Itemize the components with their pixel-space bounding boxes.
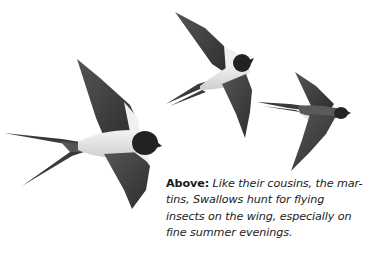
swallow-large-left — [4, 59, 162, 209]
swallow-right — [257, 72, 351, 171]
upper-wing — [77, 59, 137, 137]
lower-wing — [291, 114, 336, 171]
upper-wing — [175, 12, 230, 72]
lower-wing — [104, 152, 150, 209]
caption-line-4: fine summer evenings. — [166, 225, 370, 241]
head — [334, 107, 348, 119]
caption-lead: Above: — [166, 177, 209, 190]
head — [233, 54, 251, 72]
upper-wing — [295, 72, 334, 110]
caption-line-3: insects on the wing, especially on — [166, 209, 370, 225]
caption-line-1: Above: Like their cousins, the mar- — [166, 176, 370, 192]
caption-line-2: tins, Swallows hunt for flying — [166, 192, 370, 208]
tail-streamer-lower — [22, 147, 84, 186]
head — [132, 131, 158, 155]
caption: Above: Like their cousins, the mar- tins… — [166, 176, 370, 242]
beak — [156, 142, 162, 148]
lower-wing — [222, 74, 252, 138]
beak — [347, 111, 351, 115]
swallow-top-middle — [166, 12, 254, 138]
caption-text: Like their cousins, the mar- — [213, 177, 363, 190]
